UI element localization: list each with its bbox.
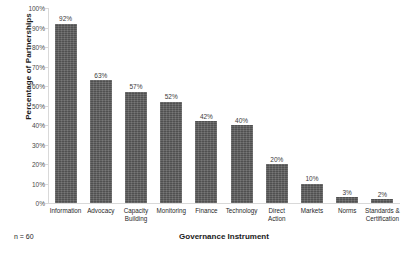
x-tick-label: Monitoring	[154, 207, 189, 215]
x-tick-label: Standards &Certification	[365, 207, 400, 223]
y-tick-mark	[45, 47, 48, 48]
y-tick-label: 20%	[32, 161, 45, 168]
bar	[301, 184, 323, 204]
y-tick-label: 40%	[32, 122, 45, 129]
x-tick-label-line: Building	[118, 215, 153, 223]
bar	[195, 121, 217, 203]
x-tick-label: Finance	[189, 207, 224, 215]
x-tick-label-line: Technology	[224, 207, 259, 215]
bar	[55, 24, 77, 203]
bar-value-label: 40%	[223, 117, 261, 124]
bar-slot: 3%	[336, 8, 358, 203]
y-tick-label: 70%	[32, 63, 45, 70]
y-tick-label: 50%	[32, 102, 45, 109]
y-tick-label: 60%	[32, 83, 45, 90]
bar-slot: 10%	[301, 8, 323, 203]
bar-value-label: 2%	[363, 191, 401, 198]
bar-value-label: 42%	[187, 113, 225, 120]
y-axis-line	[48, 8, 49, 203]
y-tick-mark	[45, 8, 48, 9]
y-tick-mark	[45, 86, 48, 87]
x-tick-label-line: Advocacy	[83, 207, 118, 215]
y-tick-label: 10%	[32, 180, 45, 187]
bar-value-label: 20%	[258, 156, 296, 163]
x-tick-label: Markets	[294, 207, 329, 215]
bar-slot: 63%	[90, 8, 112, 203]
x-tick-label-line: Monitoring	[154, 207, 189, 215]
bar	[266, 164, 288, 203]
y-tick-label: 30%	[32, 141, 45, 148]
y-tick-mark	[45, 184, 48, 185]
plot-area: 0%10%20%30%40%50%60%70%80%90%100% 92%63%…	[48, 8, 400, 203]
sample-size-annotation: n = 60	[14, 233, 34, 240]
y-tick-label: 0%	[36, 200, 45, 207]
bar-slot: 42%	[195, 8, 217, 203]
y-tick-label: 80%	[32, 44, 45, 51]
x-tick-label: CapacityBuilding	[118, 207, 153, 223]
x-tick-label-line: Direct	[259, 207, 294, 215]
y-tick-mark	[45, 203, 48, 204]
x-tick-label-line: Capacity	[118, 207, 153, 215]
x-tick-label-line: Standards &	[365, 207, 400, 215]
bar-value-label: 3%	[328, 189, 366, 196]
x-tick-label-line: Certification	[365, 215, 400, 223]
bar-slot: 20%	[266, 8, 288, 203]
bar-slot: 92%	[55, 8, 77, 203]
x-axis-title: Governance Instrument	[48, 232, 400, 241]
bar-value-label: 52%	[152, 93, 190, 100]
bar-value-label: 63%	[82, 72, 120, 79]
bar-slot: 40%	[231, 8, 253, 203]
y-tick-label: 100%	[28, 5, 45, 12]
y-tick-mark	[45, 145, 48, 146]
x-tick-label: DirectAction	[259, 207, 294, 223]
bar	[125, 92, 147, 203]
x-tick-label-line: Markets	[294, 207, 329, 215]
bar	[90, 80, 112, 203]
x-tick-label: Norms	[330, 207, 365, 215]
y-tick-mark	[45, 106, 48, 107]
bar	[371, 199, 393, 203]
x-tick-label-line: Information	[48, 207, 83, 215]
bar-value-label: 92%	[47, 15, 85, 22]
bar-value-label: 10%	[293, 175, 331, 182]
bar-slot: 57%	[125, 8, 147, 203]
x-tick-label-line: Norms	[330, 207, 365, 215]
y-tick-mark	[45, 164, 48, 165]
y-tick-mark	[45, 28, 48, 29]
bar	[231, 125, 253, 203]
x-tick-label-line: Finance	[189, 207, 224, 215]
y-tick-label: 90%	[32, 24, 45, 31]
x-tick-label: Technology	[224, 207, 259, 215]
y-tick-mark	[45, 125, 48, 126]
x-tick-label-line: Action	[259, 215, 294, 223]
bar-slot: 52%	[160, 8, 182, 203]
bar	[336, 197, 358, 203]
bar	[160, 102, 182, 203]
y-tick-mark	[45, 67, 48, 68]
bar-chart-figure: Percentage of Partnerships 0%10%20%30%40…	[0, 0, 405, 259]
x-tick-label: Advocacy	[83, 207, 118, 215]
x-axis-line	[48, 203, 400, 204]
bar-slot: 2%	[371, 8, 393, 203]
x-tick-label: Information	[48, 207, 83, 215]
bar-value-label: 57%	[117, 83, 155, 90]
